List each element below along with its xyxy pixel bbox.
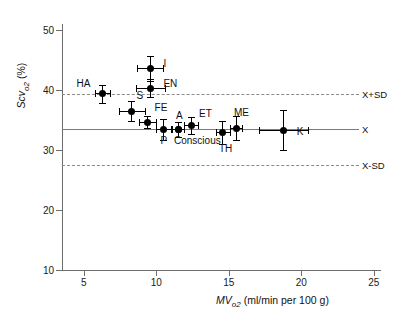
error-bar-cap [144, 116, 151, 117]
y-tick-label: 20 [30, 205, 54, 216]
y-axis-line [62, 24, 63, 270]
data-point-label: P [161, 135, 168, 146]
x-tick [374, 270, 375, 276]
data-point-label: EN [163, 78, 177, 89]
error-bar-cap [137, 65, 138, 72]
data-point-label: ET [199, 108, 212, 119]
data-point-marker [144, 119, 151, 126]
error-bar-cap [188, 134, 195, 135]
reference-line-x [62, 129, 359, 130]
y-tick [56, 270, 62, 271]
error-bar-cap [160, 119, 167, 120]
error-bar-cap [128, 121, 135, 122]
data-point-marker [99, 90, 106, 97]
y-tick-label: 10 [30, 265, 54, 276]
reference-line-xminussd [62, 165, 359, 166]
data-point-marker [147, 85, 154, 92]
error-bar-cap [144, 128, 151, 129]
error-bar-cap [147, 79, 154, 80]
data-point-marker [233, 125, 240, 132]
error-bar-cap [147, 97, 154, 98]
y-tick-label: 50 [30, 25, 54, 36]
error-bar-cap [230, 125, 231, 132]
data-point-label: A [176, 110, 183, 121]
error-bar-cap [139, 119, 140, 126]
x-axis-line [62, 270, 381, 271]
reference-line-label: X-SD [362, 160, 385, 171]
x-axis-title: MVo2 (ml/min per 100 g) [150, 294, 395, 309]
error-bar-cap [95, 90, 96, 97]
data-point-marker [280, 127, 287, 134]
error-bar-cap [259, 127, 260, 134]
data-point-label: TH [219, 143, 232, 154]
data-point-label: S [137, 90, 144, 101]
error-bar-cap [156, 126, 157, 133]
data-point-label: ME [234, 107, 249, 118]
error-bar-cap [280, 150, 287, 151]
data-point-label: FE [155, 102, 168, 113]
error-bar-cap [216, 129, 217, 136]
data-point-label: I [163, 58, 166, 69]
error-bar-cap [145, 108, 146, 115]
y-tick [56, 30, 62, 31]
error-bar-cap [156, 119, 157, 126]
y-tick [56, 90, 62, 91]
error-bar-cap [99, 85, 106, 86]
x-tick-label: 20 [286, 277, 316, 288]
x-tick [301, 270, 302, 276]
x-tick [229, 270, 230, 276]
error-bar-cap [219, 121, 226, 122]
data-point-marker [175, 126, 182, 133]
x-tick-label: 25 [359, 277, 389, 288]
error-bar-cap [128, 101, 135, 102]
error-bar-cap [233, 140, 240, 141]
error-bar-cap [99, 103, 106, 104]
y-tick-label: 30 [30, 145, 54, 156]
data-point-marker [128, 108, 135, 115]
error-bar-cap [198, 122, 199, 129]
error-bar-cap [280, 110, 287, 111]
x-tick-label: 10 [141, 277, 171, 288]
data-point-label: Conscious [174, 135, 221, 146]
error-bar-cap [242, 125, 243, 132]
y-tick [56, 150, 62, 151]
error-bar-cap [188, 117, 195, 118]
error-bar-cap [172, 126, 173, 133]
data-point-label: K [297, 126, 304, 137]
reference-line-label: X [362, 124, 368, 135]
error-bar-cap [110, 90, 111, 97]
data-point-label: HA [77, 78, 91, 89]
error-bar-cap [147, 56, 154, 57]
reference-line-label: X+SD [362, 88, 387, 99]
error-bar-cap [119, 108, 120, 115]
x-tick [156, 270, 157, 276]
x-tick [84, 270, 85, 276]
x-tick-label: 15 [214, 277, 244, 288]
scatter-chart-figure: Scvo2 (%) MVo2 (ml/min per 100 g) 102030… [0, 0, 400, 320]
y-tick-label: 40 [30, 85, 54, 96]
y-axis-title: Scvo2 (%) [15, 41, 30, 131]
data-point-marker [147, 65, 154, 72]
y-tick [56, 210, 62, 211]
data-point-marker [188, 122, 195, 129]
data-point-marker [160, 126, 167, 133]
error-bar-cap [184, 122, 185, 129]
data-point-marker [219, 129, 226, 136]
x-tick-label: 5 [69, 277, 99, 288]
error-bar-cap [308, 127, 309, 134]
error-bar-cap [175, 122, 182, 123]
